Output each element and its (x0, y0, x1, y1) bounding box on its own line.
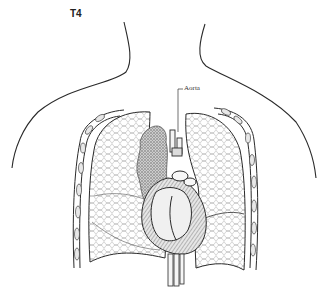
aorta-label: Aorta (184, 84, 200, 92)
aorta (170, 130, 182, 156)
thorax-illustration (0, 0, 327, 290)
descending-vessels (168, 254, 184, 286)
thorax-diagram: T4 Aorta (0, 0, 327, 290)
figure-title: T4 (70, 8, 82, 19)
aorta-leader-line (178, 89, 183, 132)
